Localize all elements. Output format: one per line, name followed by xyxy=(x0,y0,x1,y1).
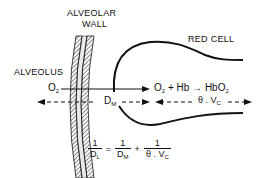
term1-numerator: 1 xyxy=(118,138,127,148)
theta-vc-sub: C xyxy=(217,100,221,106)
dm-sub: M xyxy=(111,101,116,107)
alveolus-label: ALVEOLUS xyxy=(14,67,63,77)
reaction-hb: Hb xyxy=(177,82,190,93)
plus-sign: + xyxy=(134,144,141,154)
o2-text: O xyxy=(48,82,56,93)
theta-vc-text: θ . V xyxy=(198,95,217,105)
red-cell-text: RED CELL xyxy=(188,34,234,44)
lhs-fraction: 1 DL xyxy=(88,138,102,160)
alveolar-wall-label: ALVEOLAR xyxy=(67,8,116,18)
reaction-o2-sub: 2 xyxy=(162,88,165,94)
term1-fraction: 1 DM xyxy=(115,138,131,160)
alveolar-o2-label: O2 xyxy=(48,82,59,94)
theta-vc-label: θ . VC xyxy=(197,95,222,106)
lhs-denominator: DL xyxy=(88,148,102,160)
term1-denominator: DM xyxy=(115,148,131,160)
term1-den-sub: M xyxy=(124,154,129,160)
alveolus-text: ALVEOLUS xyxy=(14,67,63,77)
red-cell-outline-lower xyxy=(119,106,243,125)
arrowhead-mid-left xyxy=(155,99,163,105)
arrowhead-right xyxy=(244,99,252,105)
term2-denominator: θ . VC xyxy=(144,148,171,160)
reaction-product-sub: 2 xyxy=(225,88,228,94)
arrowhead-left xyxy=(37,99,45,105)
dm-label: DM xyxy=(103,95,117,107)
label-line2: WALL xyxy=(82,19,107,29)
lhs-den-sub: L xyxy=(97,154,100,160)
diffusion-equation: 1 DL = 1 DM + 1 θ . VC xyxy=(88,138,171,160)
term2-numerator: 1 xyxy=(153,138,162,148)
reaction-plus: + xyxy=(168,82,174,93)
equals-sign: = xyxy=(105,144,112,154)
term2-den-sub: C xyxy=(164,154,168,160)
reaction-formula: O2 + Hb → HbO2 xyxy=(154,82,229,94)
red-cell-label: RED CELL xyxy=(188,34,234,44)
alveolar-wall-label-2: WALL xyxy=(82,19,107,29)
reaction-o2: O xyxy=(154,82,162,93)
reaction-arrow-icon: → xyxy=(192,82,202,93)
o2-sub: 2 xyxy=(56,88,59,94)
term2-den-text: θ . V xyxy=(146,149,165,159)
label-line1: ALVEOLAR xyxy=(67,8,116,18)
arrowhead-mid-right xyxy=(142,99,150,105)
reaction-product: HbO xyxy=(205,82,226,93)
lhs-numerator: 1 xyxy=(90,138,99,148)
term2-fraction: 1 θ . VC xyxy=(144,138,171,160)
